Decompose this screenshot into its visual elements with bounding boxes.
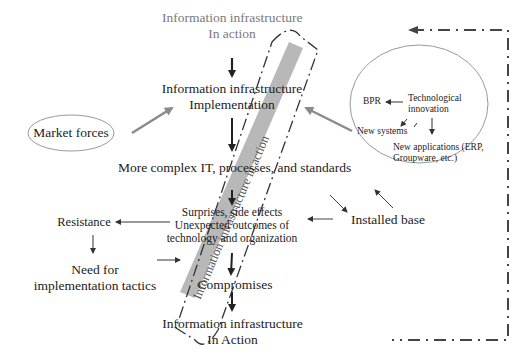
implementation-node: Information infrastructure Implementatio… xyxy=(152,81,312,112)
top-node-line2: In action xyxy=(162,26,302,42)
new-applications-line2: Groupware, etc.) xyxy=(393,153,484,164)
tactics-line1: Need for xyxy=(30,262,160,278)
compromises-label: Compromises xyxy=(195,277,275,293)
surprises-line2: Unexpected outcomes of xyxy=(157,219,307,232)
implementation-line2: Implementation xyxy=(152,97,312,113)
implementation-line1: Information infrastructure xyxy=(152,81,312,97)
surprises-node: Surprises, side effects Unexpected outco… xyxy=(157,206,307,246)
new-systems-label: New systems xyxy=(357,126,407,137)
resistance-label: Resistance xyxy=(48,215,120,229)
feedback-loop xyxy=(392,30,508,340)
bottom-node: Information infrastructure In Action xyxy=(160,316,305,347)
market-forces-label: Market forces xyxy=(28,125,114,141)
top-node-line1: Information infrastructure xyxy=(162,10,302,26)
surprises-line1: Surprises, side effects xyxy=(157,206,307,219)
complexity-node: More complex IT, processes, and standard… xyxy=(118,160,348,176)
bottom-node-line2: In Action xyxy=(160,332,305,348)
surprises-line3: technology and organization xyxy=(157,232,307,245)
installed-base-label: Installed base xyxy=(338,212,438,228)
tech-innovation-line1: Technological xyxy=(408,93,462,104)
tech-innovation-label: Technological innovation xyxy=(408,93,462,115)
diagram-canvas: Information infrastructure in action Inf… xyxy=(0,0,525,363)
bottom-node-line1: Information infrastructure xyxy=(160,316,305,332)
new-applications-line1: New applications (ERP, xyxy=(393,142,484,153)
new-applications-label: New applications (ERP, Groupware, etc.) xyxy=(393,142,484,164)
connector-layer xyxy=(0,0,525,363)
tactics-node: Need for implementation tactics xyxy=(30,262,160,293)
top-node: Information infrastructure In action xyxy=(162,10,302,41)
tactics-line2: implementation tactics xyxy=(30,278,160,294)
tech-innovation-line2: innovation xyxy=(408,104,462,115)
bpr-label: BPR xyxy=(363,96,381,107)
